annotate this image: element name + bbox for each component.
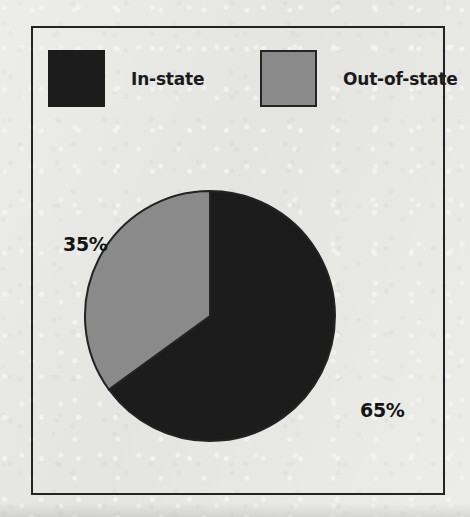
pie-chart-area: 35% 65% bbox=[33, 28, 447, 497]
pie-data-label-in-state: 65% bbox=[360, 399, 405, 421]
pie-chart bbox=[77, 183, 343, 449]
scan-bottom-shadow bbox=[0, 503, 470, 517]
pie-data-label-out-of-state: 35% bbox=[63, 233, 108, 255]
scanned-page: In-state Out-of-state 35% 65% bbox=[0, 0, 470, 517]
chart-frame: In-state Out-of-state 35% 65% bbox=[31, 26, 445, 495]
